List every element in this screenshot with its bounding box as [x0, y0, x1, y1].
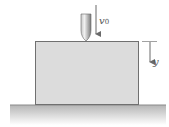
ground	[10, 105, 166, 125]
velocity-label: v0	[99, 16, 109, 27]
bullet-block-diagram	[0, 0, 169, 127]
bullet-icon	[81, 14, 91, 41]
block	[36, 42, 139, 105]
depth-label: y	[153, 57, 159, 67]
